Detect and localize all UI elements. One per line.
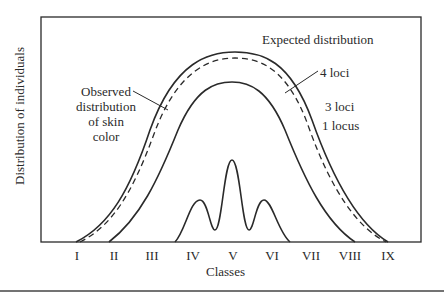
observed-line-2: distribution bbox=[66, 99, 146, 114]
class-tick-I: I bbox=[75, 248, 79, 264]
label-1-locus: 1 locus bbox=[322, 118, 359, 133]
class-tick-II: II bbox=[110, 248, 119, 264]
class-tick-IX: IX bbox=[381, 248, 395, 264]
observed-label: Observed distribution of skin color bbox=[66, 84, 146, 144]
observed-line-3: of skin bbox=[66, 114, 146, 129]
class-tick-V: V bbox=[228, 248, 237, 264]
expected-distribution-title: Expected distribution bbox=[262, 32, 374, 47]
label-4-loci: 4 loci bbox=[320, 65, 349, 80]
curve-4-loci bbox=[76, 52, 388, 242]
class-tick-III: III bbox=[146, 248, 159, 264]
class-tick-VII: VII bbox=[302, 248, 320, 264]
observed-line-4: color bbox=[66, 129, 146, 144]
label-3-loci: 3 loci bbox=[325, 99, 354, 114]
y-axis-label: Distribution of individuals bbox=[12, 16, 28, 216]
class-tick-VIII: VIII bbox=[339, 248, 361, 264]
class-tick-IV: IV bbox=[186, 248, 200, 264]
x-axis-label: Classes bbox=[206, 264, 245, 279]
class-tick-VI: VI bbox=[265, 248, 279, 264]
curve-1-locus bbox=[175, 160, 290, 242]
chart-canvas bbox=[0, 0, 444, 294]
leader-4-loci bbox=[285, 71, 318, 93]
observed-line-1: Observed bbox=[66, 84, 146, 99]
